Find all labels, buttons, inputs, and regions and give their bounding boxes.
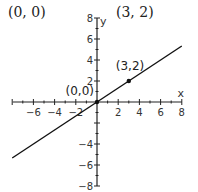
- y-tick-label: −8: [78, 181, 93, 192]
- y-tick-label: −4: [78, 139, 93, 150]
- x-tick-label: −4: [47, 107, 62, 118]
- y-tick-label: 6: [87, 34, 93, 45]
- data-point: [127, 79, 131, 83]
- y-tick-label: −6: [78, 160, 93, 171]
- x-tick-label: 8: [179, 107, 185, 118]
- x-tick-label: 6: [157, 107, 163, 118]
- y-tick-label: 4: [87, 55, 93, 66]
- y-tick-label: 8: [87, 13, 93, 24]
- x-tick-label: 4: [136, 107, 142, 118]
- y-axis-label: y: [100, 15, 107, 28]
- x-tick-label: −6: [26, 107, 41, 118]
- point-label: (0,0): [66, 84, 94, 98]
- x-axis-label: x: [178, 87, 185, 100]
- coordinate-plane: −6−4−22468−8−6−42468xy(0,0)(3,2): [0, 0, 198, 192]
- point-label: (3,2): [116, 59, 144, 73]
- x-tick-label: 2: [115, 107, 121, 118]
- data-point: [95, 100, 99, 104]
